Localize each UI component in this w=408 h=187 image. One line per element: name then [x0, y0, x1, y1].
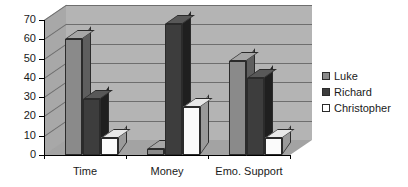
- y-axis-line: [44, 20, 45, 156]
- chart-legend: LukeRichardChristopher: [322, 68, 391, 116]
- bar-front-face: [101, 138, 118, 155]
- y-axis-tick-label: 10: [12, 130, 36, 141]
- y-axis-tick: [39, 39, 44, 40]
- bar-richard-emo-support: [247, 78, 264, 155]
- gridline: [66, 5, 312, 6]
- bar-luke-time: [65, 39, 82, 155]
- legend-label: Christopher: [334, 102, 391, 114]
- legend-label: Luke: [334, 70, 358, 82]
- y-axis-tick-label: 60: [12, 33, 36, 44]
- bar-richard-money: [165, 24, 182, 155]
- y-axis-tick: [39, 20, 44, 21]
- luke-swatch-icon: [322, 72, 330, 80]
- y-axis-tick: [39, 78, 44, 79]
- x-axis-tick: [290, 155, 291, 159]
- y-axis-tick: [39, 136, 44, 137]
- bar-richard-time: [83, 99, 100, 155]
- bar-front-face: [165, 24, 182, 155]
- y-axis-tick-label: 50: [12, 53, 36, 64]
- y-axis-tick-label: 30: [12, 91, 36, 102]
- bar-front-face: [65, 39, 82, 155]
- bar-front-face: [265, 138, 282, 155]
- y-axis-tick: [39, 97, 44, 98]
- bar-luke-money: [147, 149, 164, 155]
- bar-front-face: [229, 61, 246, 156]
- bar-luke-emo-support: [229, 61, 246, 156]
- richard-swatch-icon: [322, 88, 330, 96]
- bar-front-face: [247, 78, 264, 155]
- legend-label: Richard: [334, 86, 372, 98]
- bar-christopher-time: [101, 138, 118, 155]
- y-axis-tick-label: 0: [12, 149, 36, 160]
- y-axis-tick-label: 40: [12, 72, 36, 83]
- christopher-swatch-icon: [322, 104, 330, 112]
- y-axis-tick: [39, 59, 44, 60]
- bar-front-face: [183, 107, 200, 155]
- bar-christopher-money: [183, 107, 200, 155]
- legend-item-christopher[interactable]: Christopher: [322, 100, 391, 116]
- x-axis-tick: [208, 155, 209, 159]
- bar-front-face: [83, 99, 100, 155]
- y-axis-tick: [39, 116, 44, 117]
- legend-item-richard[interactable]: Richard: [322, 84, 391, 100]
- y-axis-tick-label: 70: [12, 14, 36, 25]
- bar-chart: 010203040506070 TimeMoneyEmo. Support Lu…: [0, 0, 408, 187]
- bar-front-face: [147, 149, 164, 155]
- legend-item-luke[interactable]: Luke: [322, 68, 391, 84]
- x-axis-tick: [44, 155, 45, 159]
- bar-christopher-emo-support: [265, 138, 282, 155]
- x-axis-label-emo-support: Emo. Support: [199, 165, 299, 177]
- y-axis-tick-label: 20: [12, 110, 36, 121]
- x-axis-tick: [126, 155, 127, 159]
